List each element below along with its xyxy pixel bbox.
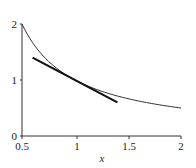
x-axis-label: x [99, 152, 105, 164]
y-tick-label: 2 [12, 18, 18, 30]
y-tick-label: 0 [12, 130, 18, 142]
tangent-line [33, 58, 118, 103]
x-tick-label: 1 [74, 140, 80, 152]
x-tick-label: 0.5 [15, 140, 29, 152]
reciprocal-curve [22, 24, 181, 108]
chart: 0.5 1 1.5 2 0 1 2 x [0, 0, 196, 168]
y-tick-label: 1 [12, 74, 18, 86]
x-tick-label: 1.5 [122, 140, 136, 152]
x-tick-label: 2 [178, 140, 184, 152]
